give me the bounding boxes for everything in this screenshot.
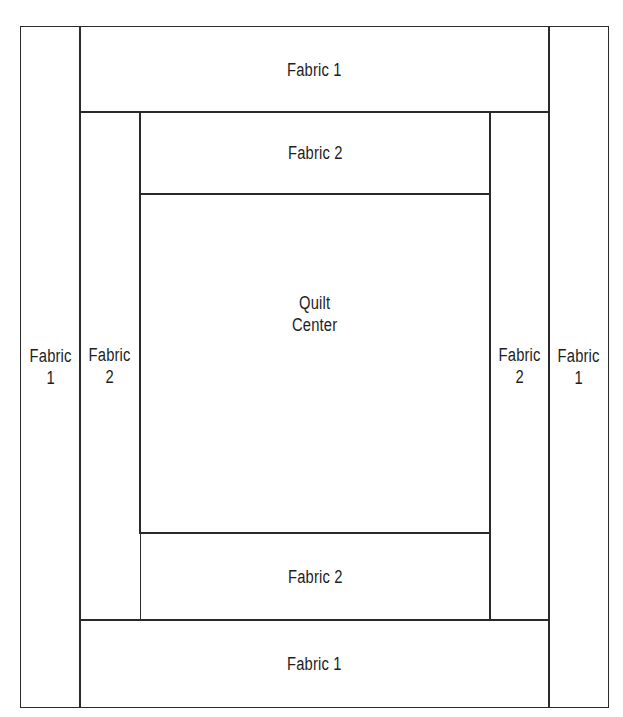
quilt-center: Quilt Center — [139, 193, 491, 534]
fabric1-top-strip: Fabric 1 — [79, 26, 550, 113]
fabric1-bottom-label: Fabric 1 — [287, 653, 342, 675]
fabric2-top-strip: Fabric 2 — [139, 111, 491, 195]
fabric2-right-strip: Fabric 2 — [489, 111, 550, 621]
fabric2-top-label: Fabric 2 — [288, 142, 343, 164]
fabric1-bottom-strip: Fabric 1 — [79, 619, 550, 708]
fabric2-left-label: Fabric 2 — [89, 344, 131, 388]
fabric1-right-label: Fabric 1 — [558, 345, 600, 389]
fabric1-left-strip: Fabric 1 — [20, 26, 81, 708]
quilt-center-label: Quilt Center — [292, 292, 337, 336]
fabric2-bottom-strip: Fabric 2 — [140, 532, 491, 621]
fabric2-bottom-label: Fabric 2 — [288, 566, 343, 588]
fabric1-left-label: Fabric 1 — [30, 345, 72, 389]
fabric2-left-strip: Fabric 2 — [79, 111, 141, 621]
quilt-diagram: Fabric 1 Fabric 1 Fabric 1 Fabric 1 Fabr… — [0, 0, 623, 717]
fabric1-top-label: Fabric 1 — [287, 59, 342, 81]
fabric1-right-strip: Fabric 1 — [548, 26, 609, 708]
fabric2-right-label: Fabric 2 — [499, 344, 541, 388]
